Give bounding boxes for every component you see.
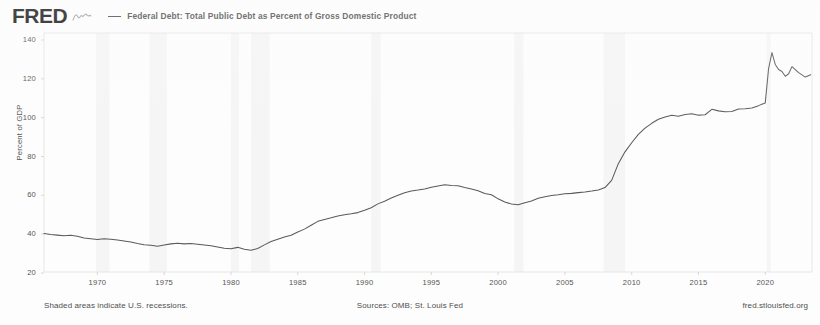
y-axis-tick-label: 120 xyxy=(8,74,36,83)
chart-footer: Shaded areas indicate U.S. recessions. S… xyxy=(0,301,820,317)
x-axis-tick-label: 2020 xyxy=(745,278,785,287)
recession-band xyxy=(371,33,380,272)
x-axis-tick-label: 2000 xyxy=(478,278,518,287)
recession-band xyxy=(96,33,109,272)
x-axis-tick-label: 1975 xyxy=(144,278,184,287)
plot-area: Percent of GDP 14012010080604020 1970197… xyxy=(0,0,820,325)
y-axis-tick-label: 140 xyxy=(8,35,36,44)
x-axis-tick-label: 1995 xyxy=(411,278,451,287)
y-axis-tick-label: 20 xyxy=(8,268,36,277)
y-axis-tick-label: 80 xyxy=(8,152,36,161)
recession-band xyxy=(604,33,625,272)
chart-canvas xyxy=(0,0,820,325)
fred-chart-figure: FRED Federal Debt: Total Public Debt as … xyxy=(0,0,820,325)
fred-url[interactable]: fred.stlouisfed.org xyxy=(743,301,809,310)
x-axis-tick-label: 2005 xyxy=(545,278,585,287)
x-axis-tick-label: 1980 xyxy=(211,278,251,287)
x-axis-tick-label: 1985 xyxy=(278,278,318,287)
y-axis-tick-label: 100 xyxy=(8,113,36,122)
y-axis-tick-label: 60 xyxy=(8,190,36,199)
x-axis-tick-label: 1990 xyxy=(345,278,385,287)
recession-band xyxy=(231,33,239,272)
recession-band xyxy=(514,33,523,272)
x-axis-tick-label: 2010 xyxy=(612,278,652,287)
recession-band xyxy=(150,33,167,272)
y-axis-title: Percent of GDP xyxy=(15,83,24,183)
sources-note: Sources: OMB; St. Louis Fed xyxy=(0,301,820,310)
x-axis-tick-label: 1970 xyxy=(77,278,117,287)
x-axis-tick-label: 2015 xyxy=(678,278,718,287)
recession-band xyxy=(251,33,270,272)
y-axis-tick-label: 40 xyxy=(8,229,36,238)
